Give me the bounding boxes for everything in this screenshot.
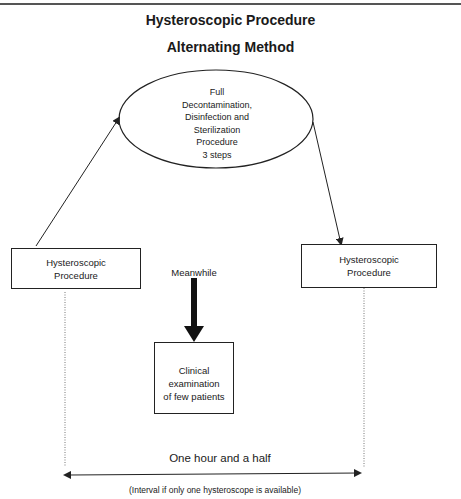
text-line: 3 steps — [124, 149, 310, 162]
interval-label: One hour and a half — [140, 452, 300, 464]
left-procedure-box: Hysteroscopic Procedure — [11, 248, 141, 289]
text-line: of few patients — [163, 390, 224, 403]
text-line: Hysteroscopic — [339, 253, 399, 266]
text-line: Procedure — [124, 136, 310, 149]
text-line: Disinfection and — [124, 111, 310, 124]
text-line: Procedure — [46, 269, 106, 282]
sterilization-node-text: Full Decontamination, Disinfection and S… — [124, 86, 310, 161]
meanwhile-label: Meanwhile — [154, 267, 234, 278]
clinical-examination-box: Clinical examination of few patients — [154, 342, 234, 414]
text-line: Procedure — [339, 266, 399, 279]
text-line: Clinical — [163, 364, 224, 377]
text-line: Sterilization — [124, 124, 310, 137]
arrow-left-to-sterilization — [36, 118, 119, 246]
right-procedure-box: Hysteroscopic Procedure — [301, 244, 437, 288]
arrow-sterilization-to-right — [313, 122, 341, 244]
interval-double-arrow — [70, 473, 360, 475]
text-line: examination — [163, 377, 224, 390]
text-line: Decontamination, — [124, 99, 310, 112]
text-line: Full — [124, 86, 310, 99]
interval-note: (Interval if only one hysteroscope is av… — [100, 485, 330, 495]
meanwhile-arrowhead — [184, 326, 204, 342]
text-line: Hysteroscopic — [46, 256, 106, 269]
